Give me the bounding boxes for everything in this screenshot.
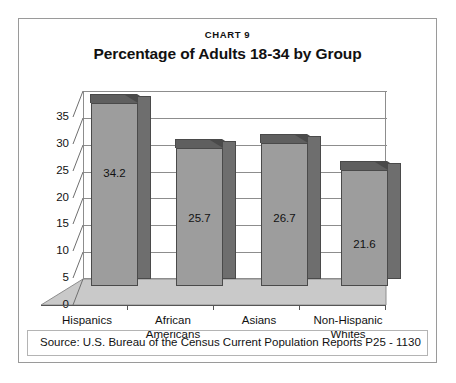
source-text: Source: U.S. Bureau of the Census Curren… [40, 336, 421, 348]
y-tick-label-5: 5 [41, 271, 69, 283]
bar-side-face [388, 163, 401, 279]
x-category-line: Non-Hispanic [303, 313, 393, 327]
y-tick-label-35: 35 [41, 110, 69, 122]
y-tick-label-15: 15 [41, 217, 69, 229]
y-tick-label-20: 20 [41, 191, 69, 203]
chart-card: CHART 9 Percentage of Adults 18-34 by Gr… [18, 18, 437, 363]
x-category-line: Hispanics [47, 313, 127, 327]
x-category-line: Asians [219, 313, 299, 327]
bar-top-face [341, 162, 388, 170]
bar-side-face [308, 136, 321, 279]
bar-hispanics: 34.2 [91, 73, 138, 286]
bar-value-label: 21.6 [341, 238, 388, 250]
x-tick-2 [213, 305, 214, 310]
x-category-line: African [133, 313, 213, 327]
bar-side-face [223, 141, 236, 279]
y-tick-label-30: 30 [41, 137, 69, 149]
bar-front-face [91, 103, 138, 286]
bar-value-label: 25.7 [176, 212, 223, 224]
y-tick-label-10: 10 [41, 244, 69, 256]
x-tick-3 [299, 305, 300, 310]
bar-value-label: 34.2 [91, 167, 138, 179]
bar-top-face [176, 140, 223, 148]
x-category-label-asians: Asians [219, 313, 299, 327]
bar-side-face [138, 96, 151, 279]
chart-number-label: CHART 9 [19, 29, 436, 40]
bar-african-americans: 25.7 [176, 73, 223, 286]
x-tick-4 [385, 305, 386, 310]
bar-top-face [261, 135, 308, 143]
source-box: Source: U.S. Bureau of the Census Curren… [27, 330, 428, 356]
page-title: Percentage of Adults 18-34 by Group [19, 45, 436, 63]
bar-asians: 26.7 [261, 73, 308, 286]
plot-area: 35 30 25 20 15 10 5 0 34.2 25.7 [41, 73, 419, 305]
x-category-label-hispanics: Hispanics [47, 313, 127, 327]
y-tick-label-25: 25 [41, 164, 69, 176]
bar-value-label: 26.7 [261, 212, 308, 224]
bar-top-face [91, 95, 138, 103]
y-tick-label-0: 0 [41, 298, 69, 310]
bar-front-face [341, 170, 388, 286]
bar-non-hispanic-whites: 21.6 [341, 73, 388, 286]
x-tick-1 [127, 305, 128, 310]
